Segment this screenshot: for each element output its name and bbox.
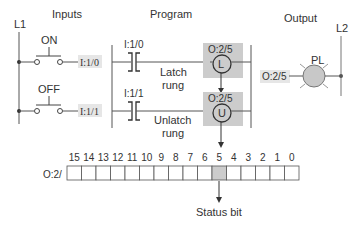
bit-cell-1	[270, 166, 285, 180]
bit-cell-5	[212, 166, 227, 180]
bit-label: 10	[141, 152, 153, 163]
contact-address: I:1/0	[124, 39, 144, 50]
bit-cell-2	[256, 166, 271, 180]
bit-label: 5	[216, 152, 222, 163]
bit-label: 13	[98, 152, 110, 163]
bit-cell-9	[154, 166, 169, 180]
coil-address: O:2/5	[208, 44, 233, 55]
input-address: I:1/1	[80, 106, 99, 117]
rung-caption: rung	[162, 79, 184, 91]
arrow-down-icon	[216, 197, 222, 203]
lamp-address: O:2/5	[262, 71, 287, 82]
bit-label: 14	[83, 152, 95, 163]
contact-address: I:1/1	[124, 88, 144, 99]
rail-left-label: L1	[14, 18, 26, 30]
coil-address: O:2/5	[208, 93, 233, 104]
input-address: I:1/0	[80, 57, 99, 68]
bit-label: 4	[231, 152, 237, 163]
lamp-label: PL	[311, 54, 324, 66]
bit-cell-7	[183, 166, 198, 180]
rung-caption: Unlatch	[154, 114, 191, 126]
bit-cell-3	[241, 166, 256, 180]
unlatch-rung: I:1/1 Unlatch rung O:2/5 U	[112, 88, 251, 139]
pilot-lamp: PL O:2/5	[260, 36, 343, 96]
bit-label: 2	[260, 152, 266, 163]
input-label: ON	[41, 34, 58, 46]
bit-label: 7	[187, 152, 193, 163]
output-register: O:2/ 1514131211109876543210 Status bit	[43, 152, 299, 218]
input-label: OFF	[38, 83, 60, 95]
inputs-title: Inputs	[52, 8, 82, 20]
rail-right-label: L2	[336, 22, 348, 34]
bit-label: 6	[202, 152, 208, 163]
bit-cell-15	[67, 166, 82, 180]
rung-caption: Latch	[160, 66, 187, 78]
bit-label: 11	[127, 152, 138, 163]
bit-cell-14	[82, 166, 97, 180]
pushbutton-on: ON I:1/0	[19, 34, 102, 68]
program-title: Program	[150, 8, 192, 20]
rail-junction	[339, 74, 343, 78]
coil-type: L	[218, 58, 224, 70]
bit-cell-10	[140, 166, 155, 180]
register-name: O:2/	[43, 169, 62, 180]
lamp-icon	[303, 65, 325, 87]
coil-type: U	[218, 107, 226, 119]
bit-label: 15	[69, 152, 81, 163]
output-title: Output	[284, 12, 317, 24]
bit-cell-11	[125, 166, 140, 180]
bit-cell-12	[111, 166, 126, 180]
bit-label: 9	[158, 152, 164, 163]
bit-cell-6	[198, 166, 213, 180]
status-bit-caption: Status bit	[196, 206, 242, 218]
rung-caption: rung	[162, 127, 184, 139]
latch-unlatch-diagram: Inputs Program Output L1 L2 ON I:1/0 OFF…	[0, 0, 356, 229]
bit-label: 1	[274, 152, 280, 163]
bit-cell-8	[169, 166, 184, 180]
pushbutton-off: OFF I:1/1	[19, 83, 102, 117]
bit-cell-4	[227, 166, 242, 180]
bit-cell-13	[96, 166, 111, 180]
bit-label: 12	[112, 152, 124, 163]
bit-cell-0	[285, 166, 300, 180]
arrow-down-icon	[218, 142, 224, 148]
bit-label: 3	[245, 152, 251, 163]
bit-label: 8	[173, 152, 179, 163]
bit-label: 0	[289, 152, 295, 163]
latch-rung: I:1/0 Latch rung O:2/5 L	[112, 39, 251, 91]
